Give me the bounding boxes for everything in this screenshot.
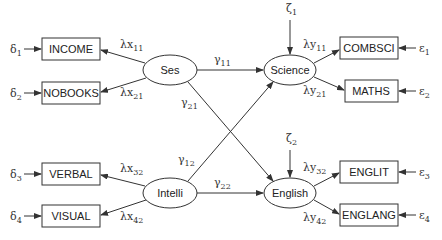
svg-text:VERBAL: VERBAL — [49, 168, 92, 180]
svg-text:λx32: λx32 — [120, 162, 143, 177]
svg-text:λy21: λy21 — [303, 84, 326, 99]
path-gamma22: γ22 — [197, 176, 263, 193]
svg-text:ε2: ε2 — [419, 85, 430, 100]
svg-text:COMBSCI: COMBSCI — [343, 42, 394, 54]
svg-text:NOBOOKS: NOBOOKS — [43, 87, 99, 99]
error-epsilon-4: ε4 — [399, 209, 430, 224]
svg-text:ENGLANG: ENGLANG — [342, 209, 396, 221]
loading-lx42: λx42 — [101, 200, 146, 225]
svg-text:λy32: λy32 — [303, 161, 326, 176]
disturbance-zeta1: ζ1 — [286, 2, 297, 54]
svg-text:ε1: ε1 — [419, 42, 430, 57]
svg-text:γ22: γ22 — [214, 176, 231, 191]
svg-text:Ses: Ses — [161, 64, 180, 76]
error-delta-1: δ1 — [10, 43, 41, 58]
node-visual: VISUAL — [42, 205, 100, 227]
svg-text:English: English — [272, 187, 308, 199]
svg-text:λx21: λx21 — [120, 86, 143, 101]
loading-lx21: λx21 — [101, 78, 146, 101]
svg-text:MATHS: MATHS — [352, 85, 390, 97]
svg-text:δ1: δ1 — [10, 43, 22, 58]
svg-text:γ12: γ12 — [178, 153, 195, 168]
svg-text:δ2: δ2 — [10, 87, 22, 102]
svg-text:λx11: λx11 — [120, 38, 143, 53]
svg-text:INCOME: INCOME — [49, 43, 93, 55]
error-epsilon-3: ε3 — [399, 166, 430, 181]
svg-text:γ11: γ11 — [214, 53, 231, 68]
latent-ses: Ses — [143, 55, 197, 85]
svg-text:λx42: λx42 — [120, 210, 143, 225]
node-nobooks: NOBOOKS — [42, 82, 100, 104]
svg-text:δ3: δ3 — [10, 168, 22, 183]
node-englit: ENGLIT — [340, 161, 398, 183]
sem-diagram: INCOME NOBOOKS VERBAL VISUAL δ1 δ2 δ3 δ4… — [0, 0, 442, 240]
node-maths: MATHS — [345, 80, 398, 102]
node-income: INCOME — [42, 38, 100, 60]
svg-text:ε3: ε3 — [419, 166, 430, 181]
svg-text:δ4: δ4 — [10, 210, 22, 225]
svg-text:ζ1: ζ1 — [286, 2, 297, 17]
svg-text:ε4: ε4 — [419, 209, 430, 224]
latent-intelli: Intelli — [143, 178, 197, 208]
svg-text:Science: Science — [270, 64, 309, 76]
error-epsilon-1: ε1 — [399, 42, 430, 57]
disturbance-zeta2: ζ2 — [286, 132, 297, 177]
node-combsci: COMBSCI — [340, 37, 398, 59]
error-delta-4: δ4 — [10, 210, 41, 225]
svg-text:ENGLIT: ENGLIT — [349, 166, 389, 178]
svg-text:Intelli: Intelli — [157, 187, 183, 199]
error-delta-2: δ2 — [10, 87, 41, 102]
path-gamma11: γ11 — [197, 53, 263, 70]
latent-english: English — [264, 178, 316, 208]
svg-text:ζ2: ζ2 — [286, 132, 297, 147]
node-verbal: VERBAL — [42, 163, 100, 185]
svg-text:λy11: λy11 — [303, 38, 326, 53]
latent-science: Science — [264, 55, 316, 85]
svg-text:VISUAL: VISUAL — [51, 210, 90, 222]
node-englang: ENGLANG — [340, 204, 398, 226]
error-delta-3: δ3 — [10, 168, 41, 183]
svg-text:γ21: γ21 — [181, 96, 198, 111]
path-gamma21: γ21 — [181, 82, 273, 181]
loading-lx32: λx32 — [101, 162, 145, 186]
path-gamma12: γ12 — [178, 82, 273, 181]
svg-text:λy42: λy42 — [303, 211, 326, 226]
loading-lx11: λx11 — [101, 38, 145, 63]
error-epsilon-2: ε2 — [399, 85, 430, 100]
